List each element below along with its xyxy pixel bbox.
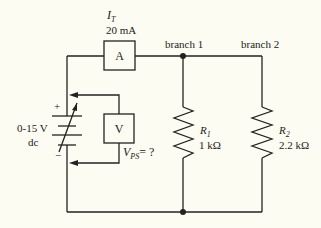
voltmeter-lead-negative bbox=[74, 143, 119, 163]
arrow-left-icon bbox=[69, 160, 78, 166]
circuit-diagram: IT 20 mA A branch 1 branch 2 R1 1 kΩ R2 … bbox=[0, 0, 321, 228]
voltage-label: VPS= ? bbox=[123, 146, 154, 161]
r1-value: 1 kΩ bbox=[199, 140, 221, 151]
branch-1-label: branch 1 bbox=[165, 39, 203, 50]
voltmeter-symbol: V bbox=[104, 123, 134, 135]
voltmeter-lead-positive bbox=[74, 95, 119, 114]
current-reading: 20 mA bbox=[106, 25, 136, 36]
r2-value: 2.2 kΩ bbox=[279, 140, 309, 151]
branch-2-label: branch 2 bbox=[241, 39, 279, 50]
ammeter-symbol: A bbox=[104, 50, 135, 62]
r2-name: R2 bbox=[279, 125, 290, 139]
variable-arrow-head-icon bbox=[72, 103, 77, 111]
current-label: IT bbox=[107, 9, 115, 24]
junction-node-bottom bbox=[180, 209, 186, 215]
arrow-left-icon bbox=[69, 92, 78, 98]
supply-range: 0-15 V bbox=[17, 123, 48, 134]
positive-terminal: + bbox=[54, 101, 60, 112]
circuit-wires bbox=[0, 0, 321, 228]
r1-name: R1 bbox=[200, 125, 211, 139]
junction-node-top bbox=[180, 53, 186, 59]
resistor-r1-icon bbox=[174, 107, 193, 158]
negative-terminal: − bbox=[55, 150, 61, 161]
resistor-r2-icon bbox=[252, 107, 272, 158]
supply-type: dc bbox=[28, 137, 38, 148]
